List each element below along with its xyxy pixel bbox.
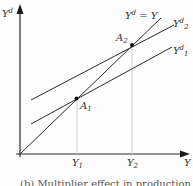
y-axis-label: Yd [2,6,13,19]
diagram-canvas: Yd Y Yd = Y Yd2 Yd1 A1 A2 Y1 Y2 (b) Mult… [0,0,193,186]
line-demand-1-label: Yd1 [173,43,189,59]
point-a1 [75,97,79,101]
tick-y2-label: Y2 [127,158,138,171]
line-45-degree-label: Yd = Y [125,8,157,21]
point-a2-label: A2 [116,33,128,46]
line-45-degree [20,18,161,154]
point-a1-label: A1 [80,101,92,114]
line-demand-1 [31,47,172,124]
figure-caption: (b) Multiplier effect in production [20,178,191,186]
point-a2 [130,43,134,47]
line-demand-2 [31,25,174,100]
diagram-svg [0,0,193,186]
tick-y1-label: Y1 [72,158,83,171]
y-axis-arrow-icon [17,4,24,14]
line-demand-2-label: Yd2 [173,16,189,32]
x-axis-label: Y [184,158,191,168]
